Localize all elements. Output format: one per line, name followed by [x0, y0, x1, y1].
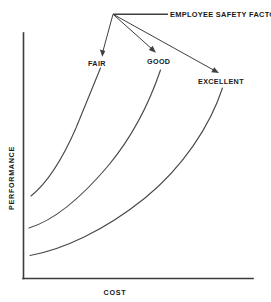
curve-excellent: [30, 88, 223, 256]
curves-group: [29, 68, 223, 256]
callout-label: EMPLOYEE SAFETY FACTOR: [170, 10, 271, 19]
cost-performance-diagram: EMPLOYEE SAFETY FACTOR FAIR GOOD EXCELLE…: [0, 0, 271, 302]
y-axis-label: PERFORMANCE: [7, 146, 16, 210]
diagram-canvas: EMPLOYEE SAFETY FACTOR FAIR GOOD EXCELLE…: [0, 0, 271, 302]
axes-group: [23, 33, 253, 279]
curve-label-excellent: EXCELLENT: [198, 77, 244, 86]
curve-good: [29, 70, 161, 228]
arrowhead-fair: [100, 50, 105, 57]
x-axis-label: COST: [104, 288, 127, 297]
curve-label-fair: FAIR: [88, 59, 106, 68]
labels-group: EMPLOYEE SAFETY FACTOR FAIR GOOD EXCELLE…: [7, 10, 271, 297]
curve-fair: [31, 68, 101, 196]
arrowhead-excellent: [211, 67, 219, 73]
curve-label-good: GOOD: [147, 57, 170, 66]
leader-line-good: [113, 14, 153, 49]
leader-line-fair: [103, 14, 113, 52]
